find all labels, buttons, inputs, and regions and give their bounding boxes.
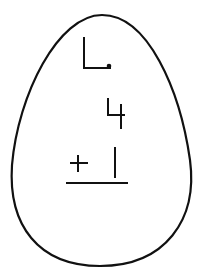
problem-label-glyph [84,37,111,68]
plus-sign-glyph [70,155,88,172]
digit-four-glyph [108,98,125,129]
egg-outline [0,0,208,279]
